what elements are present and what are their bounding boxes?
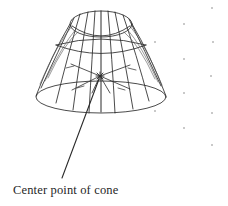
artifact-dot — [211, 7, 213, 9]
cone-meridian — [73, 12, 88, 110]
artifact-dot — [211, 144, 213, 146]
center-point-caption: Center point of cone — [13, 183, 118, 197]
cone-spoke — [71, 64, 100, 76]
center-point-marker-icon — [96, 72, 104, 80]
cone-meridian — [129, 19, 161, 86]
artifact-dot — [183, 92, 185, 94]
cone-tick — [118, 88, 125, 90]
cone-tick — [66, 66, 74, 68]
artifact-dot — [212, 41, 214, 43]
artifact-dot — [154, 41, 156, 43]
artifact-dot — [183, 127, 185, 129]
artifact-dot — [211, 112, 213, 114]
cone-back-meridian — [130, 26, 162, 85]
cone-tick — [128, 68, 136, 70]
cone-back-meridian — [127, 29, 158, 82]
cone-wireframe — [36, 11, 166, 113]
artifact-dot — [183, 23, 185, 25]
cone-spoke — [100, 65, 130, 76]
cone-back-meridian — [45, 29, 76, 81]
cone-back-meridian — [40, 26, 72, 84]
cone-meridian — [108, 11, 115, 113]
artifact-dot — [210, 75, 212, 77]
artifact-dot — [183, 58, 185, 60]
cone-left-slant — [36, 24, 70, 96]
scan-artifact-dots — [154, 7, 214, 146]
cone-figure: Center point of cone — [0, 0, 228, 206]
cone-meridian — [123, 15, 149, 101]
annotation-leader-line — [62, 79, 99, 178]
artifact-dot — [154, 110, 156, 112]
cone-diagram-canvas — [0, 0, 228, 206]
